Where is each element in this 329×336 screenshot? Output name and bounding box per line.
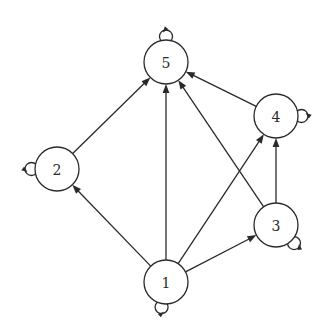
edge-3-to-4	[273, 138, 280, 203]
node-2: 2	[35, 147, 79, 191]
edge-2-to-5	[73, 77, 151, 153]
edge-1-to-2	[72, 185, 150, 266]
edge-1-to-4	[178, 134, 264, 263]
edge-3-to-5	[178, 80, 263, 207]
edge-1-to-3	[186, 235, 257, 272]
node-1: 1	[144, 260, 188, 304]
node-4: 4	[254, 94, 298, 138]
node-3: 3	[254, 203, 298, 247]
arrowhead-icon	[178, 80, 186, 89]
arrowhead-icon	[163, 84, 170, 93]
edge-1-to-5	[163, 84, 170, 260]
node-label: 4	[272, 109, 281, 125]
directed-graph: 12345	[0, 0, 329, 336]
node-label: 3	[272, 218, 281, 234]
arrowhead-icon	[247, 235, 257, 242]
edge-4-to-5	[186, 72, 257, 107]
node-label: 2	[53, 162, 62, 178]
arrowhead-icon	[256, 134, 264, 143]
node-label: 5	[162, 55, 171, 71]
arrowhead-icon	[273, 138, 280, 147]
node-label: 1	[162, 275, 171, 291]
node-5: 5	[144, 40, 188, 84]
arrowhead-icon	[186, 72, 196, 79]
edges-layer	[72, 72, 279, 272]
